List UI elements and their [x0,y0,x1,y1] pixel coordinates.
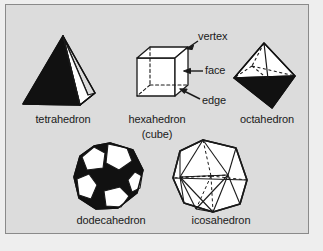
callout-label-face: face [205,64,225,76]
icosahedron-shape [173,140,247,212]
caption-octahedron: octahedron [222,113,312,125]
caption-hexahedron-cube: (cube) [112,128,202,140]
callout-label-edge: edge [202,94,226,106]
edge-arrow [180,89,200,99]
caption-tetrahedron: tetrahedron [13,113,113,125]
dodecahedron-shape [74,143,143,209]
caption-icosahedron: icosahedron [170,214,272,226]
tetrahedron-shape [23,36,95,105]
platonic-solids-figure: tetrahedron hexahedron (cube) octahedron… [0,0,323,251]
octahedron-shape [234,43,295,108]
caption-dodecahedron: dodecahedron [60,214,162,226]
caption-hexahedron: hexahedron [112,113,202,125]
callout-label-vertex: vertex [198,30,227,42]
vertex-arrow [187,41,199,50]
